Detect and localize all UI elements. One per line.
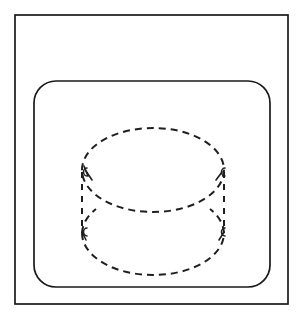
figure-canvas xyxy=(0,0,303,321)
background-plate xyxy=(0,0,303,321)
technical-drawing xyxy=(0,0,303,321)
